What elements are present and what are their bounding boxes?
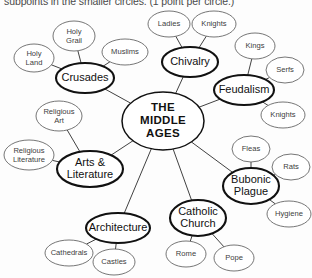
node-label-holy-land: HolyLand <box>26 49 43 67</box>
node-castles[interactable]: Castles <box>93 249 135 275</box>
node-label-catholic-church: CatholicChurch <box>178 205 218 230</box>
node-muslims[interactable]: Muslims <box>102 39 148 65</box>
node-rome[interactable]: Rome <box>166 241 206 267</box>
edge-center-to-bubonic-plague <box>191 142 232 172</box>
edge-catholic-church-to-pope <box>212 234 224 247</box>
worksheet-page: subpoints in the smaller circles. (1 poi… <box>0 0 312 278</box>
node-label-serfs: Serfs <box>276 65 294 74</box>
node-label-holy-grail: HolyGrail <box>66 27 82 45</box>
edge-feudalism-to-kings <box>248 59 252 75</box>
edge-center-to-crusades <box>105 89 131 103</box>
node-label-pope: Pope <box>225 253 243 262</box>
edge-architecture-to-cathedrals <box>86 239 96 244</box>
node-label-knights-chivalry: Knights <box>201 19 227 28</box>
node-label-kings: Kings <box>246 41 265 50</box>
nodes-layer: HolyGrailHolyLandMuslimsLadiesKnightsKin… <box>4 11 311 275</box>
node-label-architecture: Architecture <box>89 221 148 233</box>
node-architecture[interactable]: Architecture <box>86 213 150 243</box>
node-crusades[interactable]: Crusades <box>56 63 114 93</box>
node-holy-land[interactable]: HolyLand <box>14 44 54 72</box>
edge-center-to-catholic-church <box>173 149 192 200</box>
edge-chivalry-to-knights-chivalry <box>199 36 206 48</box>
node-label-religious-literature: ReligiousLiterature <box>13 146 45 164</box>
edge-center-to-architecture <box>124 149 151 213</box>
node-knights-feudalism[interactable]: Knights <box>261 102 305 128</box>
node-hygiene[interactable]: Hygiene <box>267 201 311 227</box>
node-ladies[interactable]: Ladies <box>148 11 190 37</box>
node-label-castles: Castles <box>101 257 127 266</box>
node-label-bubonic-plague: BubonicPlague <box>231 173 271 198</box>
node-label-hygiene: Hygiene <box>275 209 303 218</box>
node-rats[interactable]: Rats <box>272 154 310 180</box>
node-arts-literature[interactable]: Arts &Literature <box>57 151 123 187</box>
node-chivalry[interactable]: Chivalry <box>162 47 218 77</box>
node-label-feudalism: Feudalism <box>219 83 270 95</box>
node-label-chivalry: Chivalry <box>170 55 210 67</box>
edge-center-to-feudalism <box>199 99 220 107</box>
node-label-rome: Rome <box>176 249 196 258</box>
node-kings[interactable]: Kings <box>235 33 275 59</box>
node-label-knights-feudalism: Knights <box>270 110 296 119</box>
node-label-crusades: Crusades <box>61 71 109 83</box>
edge-chivalry-to-ladies <box>176 36 182 47</box>
edge-arts-literature-to-religious-art <box>67 130 80 152</box>
node-label-ladies: Ladies <box>158 19 181 28</box>
node-bubonic-plague[interactable]: BubonicPlague <box>223 168 279 204</box>
edge-crusades-to-holy-land <box>51 65 61 69</box>
edge-center-to-chivalry <box>176 77 184 94</box>
edge-center-to-arts-literature <box>111 141 133 155</box>
node-catholic-church[interactable]: CatholicChurch <box>170 200 226 236</box>
node-label-rats: Rats <box>283 162 299 171</box>
node-fleas[interactable]: Fleas <box>232 136 270 162</box>
node-religious-art[interactable]: ReligiousArt <box>36 101 82 131</box>
edge-crusades-to-holy-grail <box>78 51 81 63</box>
node-label-muslims: Muslims <box>111 47 139 56</box>
mind-map-diagram: HolyGrailHolyLandMuslimsLadiesKnightsKin… <box>0 0 312 278</box>
node-cathedrals[interactable]: Cathedrals <box>45 240 93 266</box>
node-knights-chivalry[interactable]: Knights <box>192 11 236 37</box>
node-serfs[interactable]: Serfs <box>266 57 304 83</box>
node-label-cathedrals: Cathedrals <box>51 248 88 257</box>
node-holy-grail[interactable]: HolyGrail <box>53 21 95 51</box>
node-pope[interactable]: Pope <box>214 245 254 271</box>
node-label-fleas: Fleas <box>242 144 261 153</box>
node-feudalism[interactable]: Feudalism <box>214 75 274 105</box>
node-religious-literature[interactable]: ReligiousLiterature <box>4 140 54 170</box>
node-center[interactable]: THEMIDDLEAGES <box>122 92 204 150</box>
